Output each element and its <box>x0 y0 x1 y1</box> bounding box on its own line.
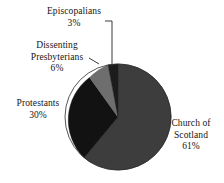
pie-chart-figure: Episcopalians 3% Dissenting Presbyterian… <box>0 0 224 183</box>
slice-label-episcopalians-name: Episcopalians <box>28 6 120 18</box>
slice-label-church-of-scotland: Church of Scotland 61% <box>160 118 222 153</box>
slice-label-episcopalians-percent: 3% <box>28 18 120 30</box>
slice-label-protestants: Protestants 30% <box>2 98 74 121</box>
slice-label-protestants-name: Protestants <box>2 98 74 110</box>
slice-label-protestants-percent: 30% <box>2 110 74 122</box>
slice-label-episcopalians: Episcopalians 3% <box>28 6 120 29</box>
slice-label-dissenting-line2: Presbyterians <box>14 52 100 64</box>
slice-label-dissenting-line1: Dissenting <box>14 40 100 52</box>
slice-label-church-line1: Church of <box>160 118 222 130</box>
slice-label-dissenting-percent: 6% <box>14 63 100 75</box>
slice-label-church-line2: Scotland <box>160 130 222 142</box>
slice-label-church-percent: 61% <box>160 141 222 153</box>
slice-label-dissenting-presbyterians: Dissenting Presbyterians 6% <box>14 40 100 75</box>
